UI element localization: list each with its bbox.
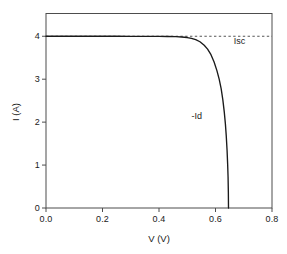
figure-canvas: 0.00.20.40.60.8 01234 V (V) I (A) Isc -I…: [0, 0, 287, 254]
y-tick-label: 1: [35, 160, 40, 170]
x-axis-title: V (V): [148, 233, 170, 244]
annotation-id: -Id: [191, 111, 202, 121]
y-tick-label: 4: [35, 31, 40, 41]
x-tick-label: 0.2: [96, 214, 109, 224]
x-tick-label: 0.4: [152, 214, 165, 224]
annotation-isc: Isc: [234, 36, 246, 46]
y-axis-ticks: [42, 36, 46, 208]
x-tick-label: 0.8: [265, 214, 278, 224]
y-tick-label: 0: [35, 203, 40, 213]
y-tick-label: 3: [35, 74, 40, 84]
x-tick-label: 0.6: [209, 214, 222, 224]
x-tick-label: 0.0: [39, 214, 52, 224]
y-axis-title: I (A): [10, 103, 21, 121]
x-axis-ticks: [46, 208, 272, 212]
y-tick-label: 2: [35, 117, 40, 127]
iv-curve-line: [46, 36, 229, 208]
